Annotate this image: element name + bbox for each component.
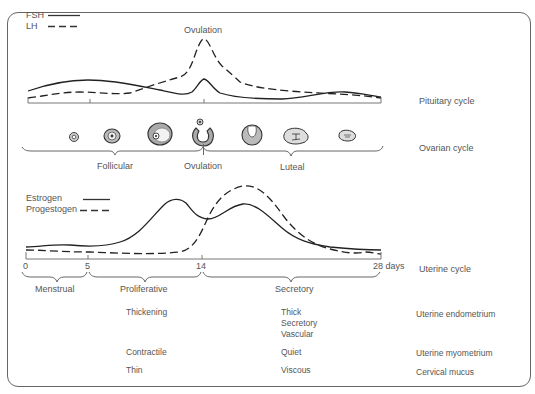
corpus-luteum-icon	[242, 125, 262, 145]
progestogen-curve	[26, 186, 381, 254]
ovarian-cycle-label: Ovarian cycle	[419, 143, 474, 154]
lh-curve	[28, 39, 381, 98]
progestogen-legend-label: Progestogen	[26, 204, 77, 215]
secretory-phase-label: Secretory	[275, 284, 314, 295]
cervical-mucus-row-label: Cervical mucus	[416, 367, 474, 378]
ovulation-peak-label: Ovulation	[184, 25, 222, 36]
follicle-primary-icon	[70, 133, 79, 142]
follicle-ruptured-icon	[193, 119, 214, 146]
ovulation-phase-label: Ovulation	[184, 161, 222, 172]
endometrium-proliferative-cell: Thickening	[126, 307, 167, 318]
estrogen-curve	[26, 199, 381, 250]
follicle-mature-icon	[148, 123, 172, 145]
diagram-graphics	[0, 0, 535, 394]
fsh-curve	[28, 79, 381, 99]
menstrual-phase-label: Menstrual	[35, 284, 75, 295]
endometrium-row-label: Uterine endometrium	[416, 309, 495, 320]
endometrium-secretory-cell: Thick Secretory Vascular	[281, 307, 317, 340]
myometrium-row-label: Uterine myometrium	[416, 348, 493, 359]
cervical-mucus-secretory-cell: Viscous	[281, 365, 311, 376]
myometrium-proliferative-cell: Contractile	[126, 347, 167, 358]
proliferative-phase-label: Proliferative	[120, 284, 168, 295]
lh-legend-label: LH	[26, 21, 38, 32]
menstrual-cycle-diagram: FSH LH Ovulation Pituitary cycle Follicu…	[0, 0, 535, 394]
pituitary-cycle-label: Pituitary cycle	[419, 96, 475, 107]
uterine-cycle-label: Uterine cycle	[419, 264, 471, 275]
tick-label-0: 0	[23, 261, 28, 272]
estrogen-legend-label: Estrogen	[26, 193, 62, 204]
tick-label-14: 14	[196, 261, 206, 272]
cervical-mucus-proliferative-cell: Thin	[126, 365, 143, 376]
tick-label-28-days: 28 days	[373, 261, 405, 272]
corpus-albicans-icon	[339, 130, 356, 141]
myometrium-secretory-cell: Quiet	[281, 347, 301, 358]
follicular-phase-label: Follicular	[97, 161, 133, 172]
proliferative-brace	[89, 272, 201, 282]
secretory-brace	[203, 272, 380, 282]
follicle-growing-icon	[104, 129, 120, 143]
luteal-phase-label: Luteal	[280, 162, 305, 173]
corpus-luteum-regressing-icon	[284, 128, 308, 144]
ovarian-brace	[22, 146, 383, 156]
menstrual-brace	[22, 272, 87, 282]
fsh-legend-label: FSH	[26, 10, 44, 21]
tick-label-5: 5	[85, 261, 90, 272]
